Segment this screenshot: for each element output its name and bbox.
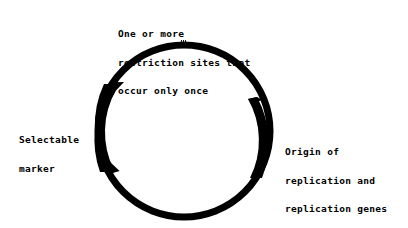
plasmid-diagram xyxy=(0,0,408,228)
plasmid-ring xyxy=(98,45,270,217)
